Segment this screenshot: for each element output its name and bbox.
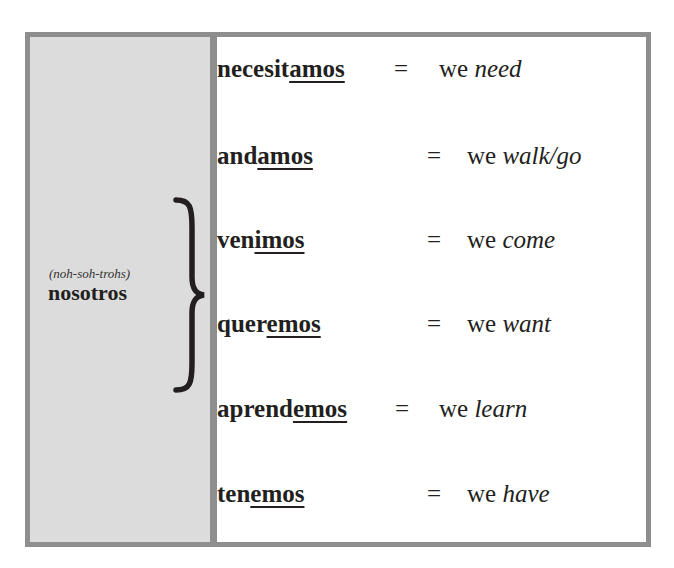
verb-ending: amos [289, 55, 345, 82]
subject-panel: (noh-soh-trohs) nosotros [30, 37, 210, 542]
verb-form: andamos [217, 142, 313, 170]
equals-sign: = [427, 142, 441, 170]
translation: we need [439, 55, 522, 83]
equals-sign: = [395, 395, 409, 423]
conjugation-table: (noh-soh-trohs) nosotros [25, 32, 651, 547]
equals-sign: = [427, 226, 441, 254]
panel-divider [210, 37, 217, 542]
translation: we come [467, 226, 555, 254]
verb-ending: imos [255, 226, 305, 253]
equals-sign: = [427, 310, 441, 338]
translation: we walk/go [467, 142, 582, 170]
verb-ending: emos [250, 480, 304, 507]
equals-sign: = [427, 480, 441, 508]
verb-form: tenemos [217, 480, 304, 508]
verb-ending: amos [257, 142, 313, 169]
translation: we learn [439, 395, 527, 423]
verb-form: aprendemos [217, 395, 347, 423]
verb-form: necesitamos [217, 55, 345, 83]
subject-pronoun: nosotros [48, 280, 127, 306]
verb-ending: emos [267, 310, 321, 337]
verb-form: queremos [217, 310, 321, 338]
equals-sign: = [394, 55, 408, 83]
translation: we have [467, 480, 550, 508]
translation: we want [467, 310, 551, 338]
verb-form: venimos [217, 226, 305, 254]
curly-brace-icon [172, 197, 206, 393]
verb-ending: emos [293, 395, 347, 422]
